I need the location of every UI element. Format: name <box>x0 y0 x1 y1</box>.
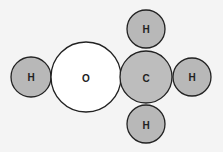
atom-label: H <box>142 24 149 35</box>
atom-h-left: H <box>11 57 51 97</box>
atom-o: O <box>51 42 121 112</box>
atom-label: H <box>142 120 149 131</box>
atom-h-bottom: H <box>127 105 165 143</box>
atom-label: C <box>142 73 149 84</box>
atom-h-top: H <box>127 10 165 48</box>
atom-label: H <box>27 72 34 83</box>
atom-c: C <box>120 51 172 103</box>
atom-label: H <box>188 72 195 83</box>
atom-label: O <box>82 73 90 84</box>
methanol-diagram: H O H H H C <box>0 0 223 152</box>
atom-h-right: H <box>173 58 211 96</box>
